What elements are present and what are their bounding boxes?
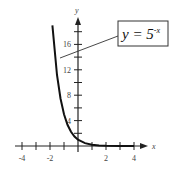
x-tick-label: 2 bbox=[104, 154, 108, 163]
y-axis bbox=[74, 17, 82, 152]
y-tick-label: 8 bbox=[67, 91, 71, 100]
x-axis-label: x bbox=[151, 142, 156, 151]
x-tick-label: -2 bbox=[47, 154, 54, 163]
y-axis-label: y bbox=[74, 6, 79, 15]
x-tick-label: 4 bbox=[132, 154, 136, 163]
x-axis-arrow-icon bbox=[140, 143, 148, 149]
y-axis-arrow-icon bbox=[75, 17, 81, 25]
y-tick-label: 16 bbox=[63, 40, 71, 49]
y-tick-label: 12 bbox=[63, 66, 71, 75]
x-tick-label: -4 bbox=[19, 154, 26, 163]
equation-exponent: -x bbox=[154, 26, 161, 35]
equation-text: y = 5 bbox=[120, 26, 154, 42]
graph: -4 -2 2 4 16 12 8 4 x y y = 5-x bbox=[0, 0, 176, 177]
equation-label-box: y = 5-x bbox=[118, 21, 168, 46]
